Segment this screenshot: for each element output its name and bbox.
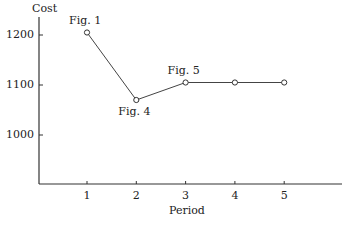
x-axis-label: Period: [169, 205, 205, 216]
line-chart: [0, 0, 347, 231]
y-tick-label: 1200: [6, 29, 34, 40]
annotation-label: Fig. 1: [69, 15, 101, 26]
data-point: [84, 30, 89, 35]
y-tick-label: 1000: [6, 129, 34, 140]
x-tick-label: 1: [77, 190, 97, 201]
annotation-label: Fig. 4: [118, 106, 150, 117]
data-point: [232, 80, 237, 85]
x-tick-label: 2: [126, 190, 146, 201]
x-tick-label: 3: [176, 190, 196, 201]
data-point: [134, 97, 139, 102]
y-axis-label: Cost: [32, 3, 57, 14]
y-tick-label: 1100: [6, 79, 34, 90]
annotation-label: Fig. 5: [168, 65, 200, 76]
data-point: [282, 80, 287, 85]
x-tick-label: 4: [225, 190, 245, 201]
x-tick-label: 5: [274, 190, 294, 201]
data-point: [183, 80, 188, 85]
